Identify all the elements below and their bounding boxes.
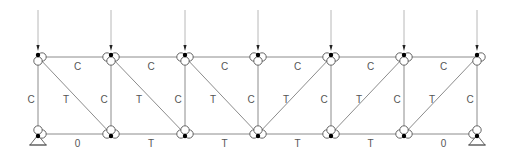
load-arrows (36, 10, 478, 51)
bottom-chord-force-label: T (221, 138, 227, 149)
joint-pin-icon (473, 53, 485, 65)
diagonal-force-label: T (356, 94, 362, 105)
load-arrow-icon (183, 10, 186, 51)
diagonal-force-label: T (283, 94, 289, 105)
load-arrow-icon (256, 10, 259, 51)
bottom-chord-force-label: 0 (441, 138, 447, 149)
joint-pin-icon (34, 126, 46, 138)
joint-pin-icon (469, 126, 481, 138)
vertical-force-label: C (27, 94, 34, 105)
diagonal-force-label: T (136, 94, 142, 105)
top-chord-force-label: C (147, 61, 154, 72)
top-chord-force-label: C (294, 61, 301, 72)
vertical-force-label: C (320, 94, 327, 105)
bottom-chord-force-label: T (148, 138, 154, 149)
diagonal-force-label: T (429, 94, 435, 105)
vertical-force-label: C (393, 94, 400, 105)
bottom-chord-force-label: T (367, 138, 373, 149)
top-chord-force-label: C (221, 61, 228, 72)
top-chord-force-label: C (440, 61, 447, 72)
truss-diagram: C0TCTTCTTCTTCTTC0TCCCCCCC (0, 0, 506, 161)
diagonal-force-label: T (210, 94, 216, 105)
load-arrow-icon (109, 10, 112, 51)
vertical-force-label: C (174, 94, 181, 105)
diagonal-force-label: T (63, 94, 69, 105)
top-chord-force-label: C (74, 61, 81, 72)
vertical-force-label: C (100, 94, 107, 105)
bottom-chord-force-label: T (294, 138, 300, 149)
top-chord-force-label: C (367, 61, 374, 72)
load-arrow-icon (402, 10, 405, 51)
vertical-force-label: C (466, 94, 473, 105)
load-arrow-icon (329, 10, 332, 51)
load-arrow-icon (475, 10, 478, 51)
joint-pin-icon (250, 53, 266, 65)
bottom-chord-force-label: 0 (75, 138, 81, 149)
load-arrow-icon (36, 10, 39, 51)
vertical-force-label: C (247, 94, 254, 105)
